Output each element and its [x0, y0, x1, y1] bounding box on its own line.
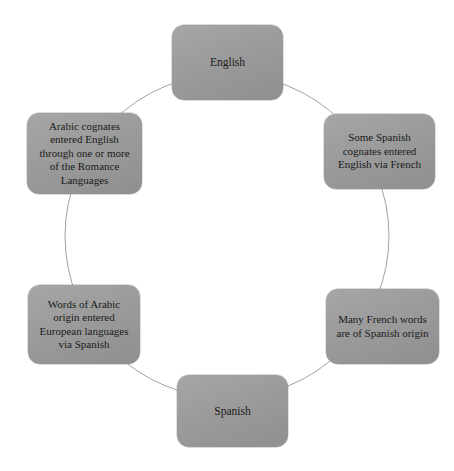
node-french-words-spanish-origin-label: Many French words are of Spanish origin: [333, 313, 432, 340]
node-spanish-cognates-english-french[interactable]: Some Spanish cognates entered English vi…: [324, 114, 435, 189]
node-french-words-spanish-origin[interactable]: Many French words are of Spanish origin: [326, 289, 439, 364]
node-arabic-cognates-english-romance-label: Arabic cognates entered English through …: [34, 120, 135, 187]
node-english-label: English: [179, 55, 276, 69]
node-spanish-cognates-english-french-label: Some Spanish cognates entered English vi…: [331, 131, 428, 171]
node-arabic-origin-european-via-spanish[interactable]: Words of Arabic origin entered European …: [28, 285, 140, 364]
node-arabic-cognates-english-romance[interactable]: Arabic cognates entered English through …: [27, 113, 142, 194]
node-arabic-origin-european-via-spanish-label: Words of Arabic origin entered European …: [35, 298, 133, 352]
node-english[interactable]: English: [172, 25, 283, 100]
cycle-diagram: English Some Spanish cognates entered En…: [0, 0, 454, 471]
node-spanish[interactable]: Spanish: [177, 375, 288, 447]
node-spanish-label: Spanish: [184, 404, 281, 418]
